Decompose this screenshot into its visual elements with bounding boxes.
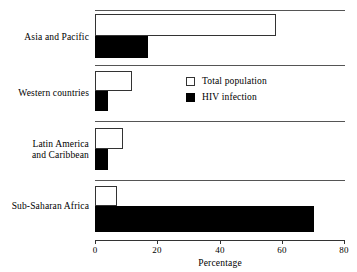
category-label-asia-and-pacific: Asia and Pacific xyxy=(0,32,89,43)
x-axis-tick-40 xyxy=(220,240,221,244)
category-label-western-countries: Western countries xyxy=(0,88,89,99)
legend-swatch-white-square-icon xyxy=(186,77,195,86)
bar-total-population-sub-saharan-africa xyxy=(95,186,117,206)
bar-total-population-latin-america-and-caribbean xyxy=(95,128,123,149)
legend-item-total-population: Total population xyxy=(186,73,267,89)
plot-area: 0 20 40 60 80 Percentage xyxy=(95,0,345,272)
x-axis-title: Percentage xyxy=(95,258,345,268)
group-separator-top xyxy=(95,10,345,11)
group-separator-1 xyxy=(95,65,345,66)
bar-hiv-infection-western-countries xyxy=(95,91,108,111)
bar-total-population-western-countries xyxy=(95,71,132,91)
x-axis-tick-0 xyxy=(95,240,96,244)
x-axis-tick-60 xyxy=(282,240,283,244)
bar-hiv-infection-latin-america-and-caribbean xyxy=(95,149,108,170)
group-separator-3 xyxy=(95,180,345,181)
x-axis-tick-label-60: 60 xyxy=(277,245,286,255)
legend-item-hiv-infection: HIV infection xyxy=(186,89,267,105)
x-axis-tick-label-20: 20 xyxy=(152,245,161,255)
bar-chart: Asia and Pacific Western countries Latin… xyxy=(0,0,357,272)
group-separator-2 xyxy=(95,121,345,122)
legend-label-hiv-infection: HIV infection xyxy=(202,92,257,102)
chart-legend: Total population HIV infection xyxy=(186,73,267,105)
category-label-latin-america-and-caribbean: Latin America and Caribbean xyxy=(0,139,89,161)
x-axis-tick-80 xyxy=(344,240,345,244)
legend-swatch-black-square-icon xyxy=(186,93,195,102)
x-axis-tick-20 xyxy=(157,240,158,244)
bar-hiv-infection-asia-and-pacific xyxy=(95,36,148,58)
x-axis-tick-label-0: 0 xyxy=(93,245,98,255)
category-label-sub-saharan-africa: Sub-Saharan Africa xyxy=(0,201,89,212)
x-axis-tick-label-40: 40 xyxy=(215,245,224,255)
x-axis-tick-label-80: 80 xyxy=(339,245,348,255)
bar-total-population-asia-and-pacific xyxy=(95,14,276,36)
bar-hiv-infection-sub-saharan-africa xyxy=(95,206,314,232)
legend-label-total-population: Total population xyxy=(202,76,267,86)
